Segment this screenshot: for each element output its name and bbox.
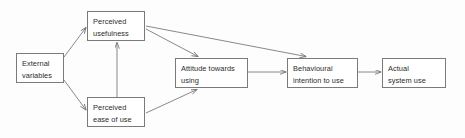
node-perceived-usefulness-line2: usefulness xyxy=(93,28,144,40)
edge-external-to-usefulness xyxy=(64,28,86,58)
node-external-variables-line2: variables xyxy=(22,70,63,82)
node-perceived-ease-of-use-line1: Perceived xyxy=(93,102,144,114)
node-external-variables[interactable]: External variables xyxy=(16,53,64,83)
node-perceived-ease-of-use-line2: ease of use xyxy=(93,114,144,126)
node-external-variables-line1: External xyxy=(22,58,63,70)
node-actual-system-use[interactable]: Actual system use xyxy=(382,58,446,88)
tam-diagram: External variables Perceived usefulness … xyxy=(0,0,465,138)
node-perceived-usefulness[interactable]: Perceived usefulness xyxy=(87,11,145,41)
node-attitude-towards-using-line2: using xyxy=(181,75,247,87)
edge-external-to-easeofuse xyxy=(64,80,86,110)
node-actual-system-use-line2: system use xyxy=(388,75,445,87)
edge-easeofuse-to-attitude xyxy=(146,90,197,114)
node-attitude-towards-using[interactable]: Attitude towards using xyxy=(175,58,248,88)
node-behavioural-intention-to-use-line1: Behavioural xyxy=(293,63,357,75)
node-perceived-ease-of-use[interactable]: Perceived ease of use xyxy=(87,97,145,127)
node-attitude-towards-using-line1: Attitude towards xyxy=(181,63,247,75)
node-perceived-usefulness-line1: Perceived xyxy=(93,16,144,28)
node-actual-system-use-line1: Actual xyxy=(388,63,445,75)
edge-usefulness-to-attitude xyxy=(146,29,198,57)
node-behavioural-intention-to-use-line2: intention to use xyxy=(293,75,357,87)
node-behavioural-intention-to-use[interactable]: Behavioural intention to use xyxy=(287,58,358,88)
